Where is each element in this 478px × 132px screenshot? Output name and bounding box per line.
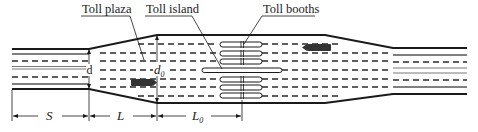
toll-booths — [202, 41, 282, 99]
toll-booth — [220, 76, 262, 83]
label-L0: L0 — [191, 108, 203, 125]
toll-island — [202, 68, 282, 73]
left-approach-lanes — [12, 54, 89, 84]
label-toll-island: Toll island — [146, 2, 200, 16]
label-S: S — [46, 108, 53, 123]
label-d: d — [87, 63, 93, 77]
label-L: L — [116, 108, 124, 123]
label-toll-plaza: Toll plaza — [82, 2, 132, 16]
label-toll-booths: Toll booths — [263, 2, 320, 16]
toll-booth — [220, 50, 262, 57]
toll-booth — [220, 84, 262, 91]
callout-toll-plaza: Toll plaza — [81, 2, 144, 60]
toll-booth — [220, 92, 262, 99]
right-departure-lanes — [393, 55, 467, 87]
horizontal-dimensions: S L L0 — [12, 90, 242, 125]
vehicle-entering — [131, 79, 157, 86]
dimension-d0: d0 — [153, 35, 167, 103]
toll-booth — [220, 41, 262, 48]
toll-plaza-diagram: d d0 S L L0 Toll plaza — [0, 0, 478, 132]
dimension-d: d — [86, 49, 93, 89]
vehicle-exiting — [302, 44, 331, 51]
toll-booth — [220, 58, 262, 65]
callout-toll-booths: Toll booths — [244, 2, 320, 44]
